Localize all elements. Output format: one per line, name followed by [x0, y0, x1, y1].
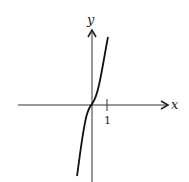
x-axis-label: x: [171, 97, 179, 112]
x-tick-label: 1: [104, 114, 111, 127]
y-axis-label: y: [86, 12, 95, 27]
graph: 1 x y: [0, 0, 189, 182]
